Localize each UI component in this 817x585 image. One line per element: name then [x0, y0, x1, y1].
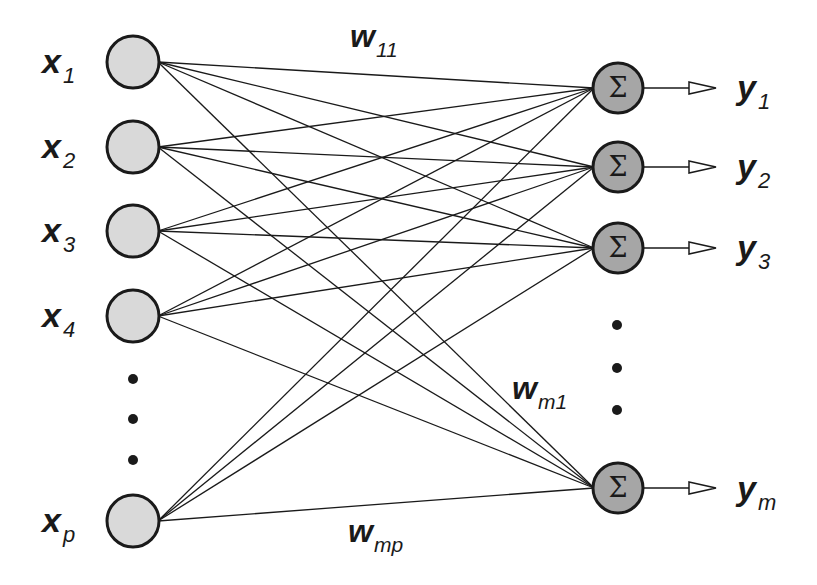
connection-line: [158, 231, 594, 248]
input-label-x3: x3: [42, 213, 75, 256]
arrow-head-icon: [689, 242, 716, 254]
input-node-2: [107, 121, 159, 173]
input-label-xp: xp: [42, 503, 75, 546]
input-ellipsis-dots: [128, 374, 138, 465]
connection-line: [158, 62, 594, 488]
connection-line: [158, 167, 594, 316]
connection-line: [158, 88, 594, 521]
input-node-3: [107, 205, 159, 257]
sigma-icon: Σ: [608, 232, 627, 263]
sigma-icon: Σ: [608, 151, 627, 182]
connection-line: [158, 88, 594, 147]
weight-label-wm1: wm1: [512, 372, 567, 412]
input-node-p: [107, 495, 159, 547]
sigma-icon: Σ: [608, 72, 627, 103]
input-label-x1: x1: [42, 44, 75, 87]
sigma-icon: Σ: [608, 472, 627, 503]
connection-line: [158, 88, 594, 231]
connection-line: [158, 231, 594, 488]
output-ellipsis-dots: [612, 320, 622, 415]
input-node-4: [107, 290, 159, 342]
connection-line: [158, 62, 594, 167]
connection-line: [158, 167, 594, 521]
input-label-x4: x4: [42, 298, 75, 341]
output-nodes: ΣΣΣΣ: [593, 63, 643, 513]
input-label-x2: x2: [42, 129, 75, 172]
output-label-y1: y1: [737, 70, 770, 113]
output-label-ym: ym: [737, 471, 776, 514]
input-nodes: [107, 36, 159, 547]
arrow-head-icon: [689, 161, 716, 173]
input-node-1: [107, 36, 159, 88]
arrow-head-icon: [689, 82, 716, 94]
connection-lines: [158, 62, 594, 521]
connection-line: [158, 167, 594, 231]
connection-line: [158, 62, 594, 88]
weight-label-wmp: wmp: [348, 515, 403, 555]
connection-line: [158, 147, 594, 167]
output-label-y3: y3: [737, 230, 770, 273]
output-arrows: [643, 82, 716, 494]
output-label-y2: y2: [737, 149, 770, 192]
arrow-head-icon: [689, 482, 716, 494]
network-diagram: ΣΣΣΣ: [0, 0, 817, 585]
weight-label-w11: w11: [350, 20, 398, 60]
